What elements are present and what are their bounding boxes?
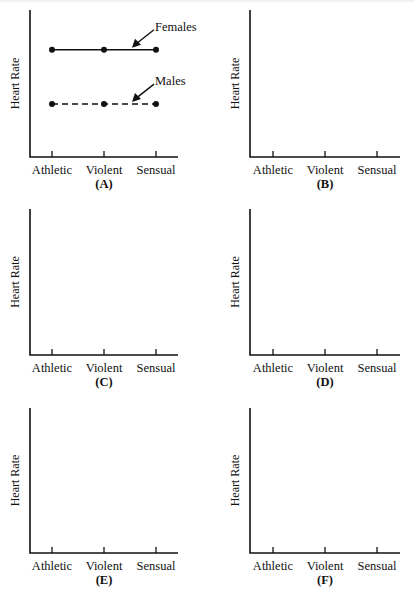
panel-label: (C) xyxy=(95,375,112,389)
data-point-males xyxy=(49,101,55,107)
panel-c: Heart RateAthleticViolentSensual(C) xyxy=(8,209,178,389)
axes-e xyxy=(30,408,178,553)
x-tick-label: Athletic xyxy=(32,163,73,177)
data-point-males xyxy=(101,101,107,107)
y-axis-label: Heart Rate xyxy=(8,455,22,507)
y-axis-label: Heart Rate xyxy=(228,256,242,308)
x-tick-label: Athletic xyxy=(32,559,73,573)
y-axis-label: Heart Rate xyxy=(228,58,242,110)
arrowhead-icon xyxy=(132,93,141,102)
data-point-males xyxy=(153,101,159,107)
data-point-females xyxy=(49,47,55,53)
data-point-females xyxy=(101,47,107,53)
x-tick-label: Sensual xyxy=(137,361,176,375)
x-tick-label: Athletic xyxy=(32,361,73,375)
figure: Heart RateAthleticViolentSensual(A)Femal… xyxy=(0,0,414,596)
panel-label: (B) xyxy=(317,177,334,191)
panel-d: Heart RateAthleticViolentSensual(D) xyxy=(228,209,400,389)
panel-e: Heart RateAthleticViolentSensual(E) xyxy=(8,408,178,587)
panel-f: Heart RateAthleticViolentSensual(F) xyxy=(228,408,400,587)
y-axis-label: Heart Rate xyxy=(8,58,22,110)
panel-b: Heart RateAthleticViolentSensual(B) xyxy=(228,10,400,191)
axes-b xyxy=(250,10,400,157)
y-axis-label: Heart Rate xyxy=(228,455,242,507)
arrowhead-icon xyxy=(132,39,141,48)
panel-label: (F) xyxy=(317,573,333,587)
x-tick-label: Athletic xyxy=(253,559,294,573)
x-tick-label: Violent xyxy=(307,361,344,375)
x-tick-label: Sensual xyxy=(137,559,176,573)
x-tick-label: Violent xyxy=(307,559,344,573)
axes-f xyxy=(250,408,400,553)
x-tick-label: Sensual xyxy=(358,163,397,177)
x-tick-label: Violent xyxy=(307,163,344,177)
x-tick-label: Sensual xyxy=(358,559,397,573)
axes-c xyxy=(30,209,178,355)
x-tick-label: Sensual xyxy=(358,361,397,375)
data-point-females xyxy=(153,47,159,53)
panel-label: (E) xyxy=(96,573,113,587)
panel-label: (D) xyxy=(316,375,333,389)
x-tick-label: Athletic xyxy=(253,361,294,375)
x-tick-label: Athletic xyxy=(253,163,294,177)
x-tick-label: Violent xyxy=(86,361,123,375)
panel-a: Heart RateAthleticViolentSensual(A)Femal… xyxy=(8,10,197,191)
x-tick-label: Violent xyxy=(86,559,123,573)
y-axis-label: Heart Rate xyxy=(8,256,22,308)
x-tick-label: Sensual xyxy=(137,163,176,177)
annotation-label-males: Males xyxy=(155,74,186,88)
axes-d xyxy=(250,209,400,355)
annotation-label-females: Females xyxy=(155,20,197,34)
panel-label: (A) xyxy=(95,177,112,191)
x-tick-label: Violent xyxy=(86,163,123,177)
